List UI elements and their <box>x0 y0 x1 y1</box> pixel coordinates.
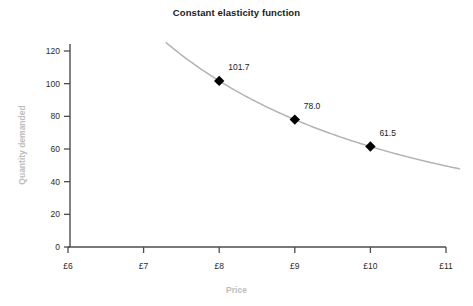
x-tick-label: £7 <box>139 261 148 271</box>
chart-container: Constant elasticity function Quantity de… <box>0 0 473 306</box>
y-tick-label: 40 <box>16 177 60 187</box>
data-point-label: 61.5 <box>379 128 396 138</box>
axes <box>64 44 446 253</box>
data-point-label: 101.7 <box>228 62 249 72</box>
x-tick-label: £9 <box>290 261 299 271</box>
y-tick-label: 20 <box>16 209 60 219</box>
y-tick-label: 120 <box>16 46 60 56</box>
x-tick-label: £10 <box>363 261 377 271</box>
x-tick-label: £6 <box>63 261 72 271</box>
y-tick-label: 100 <box>16 79 60 89</box>
x-tick-label: £11 <box>439 261 453 271</box>
y-tick-label: 60 <box>16 144 60 154</box>
y-tick-label: 0 <box>16 242 60 252</box>
data-point-label: 78.0 <box>304 101 321 111</box>
x-tick-label: £8 <box>214 261 223 271</box>
y-tick-label: 80 <box>16 111 60 121</box>
